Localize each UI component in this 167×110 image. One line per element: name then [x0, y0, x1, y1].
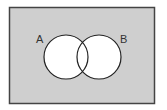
- set-b-label: B: [120, 33, 127, 45]
- venn-diagram: A B: [0, 0, 167, 110]
- set-a-label: A: [36, 33, 44, 45]
